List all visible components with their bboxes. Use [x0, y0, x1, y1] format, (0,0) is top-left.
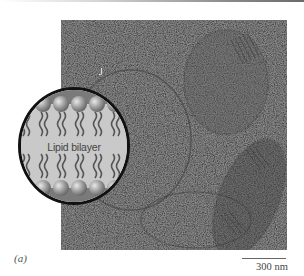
inset-label: Lipid bilayer [21, 141, 127, 153]
micrograph-artifact [99, 68, 102, 75]
panel-label: (a) [14, 252, 27, 264]
scale-bar [242, 258, 286, 259]
lipid-bilayer-inset: Lipid bilayer [18, 87, 130, 205]
scale-bar-label: 300 nm [256, 261, 288, 272]
top-rule [0, 0, 304, 2]
vesicle-top-right [184, 30, 268, 134]
